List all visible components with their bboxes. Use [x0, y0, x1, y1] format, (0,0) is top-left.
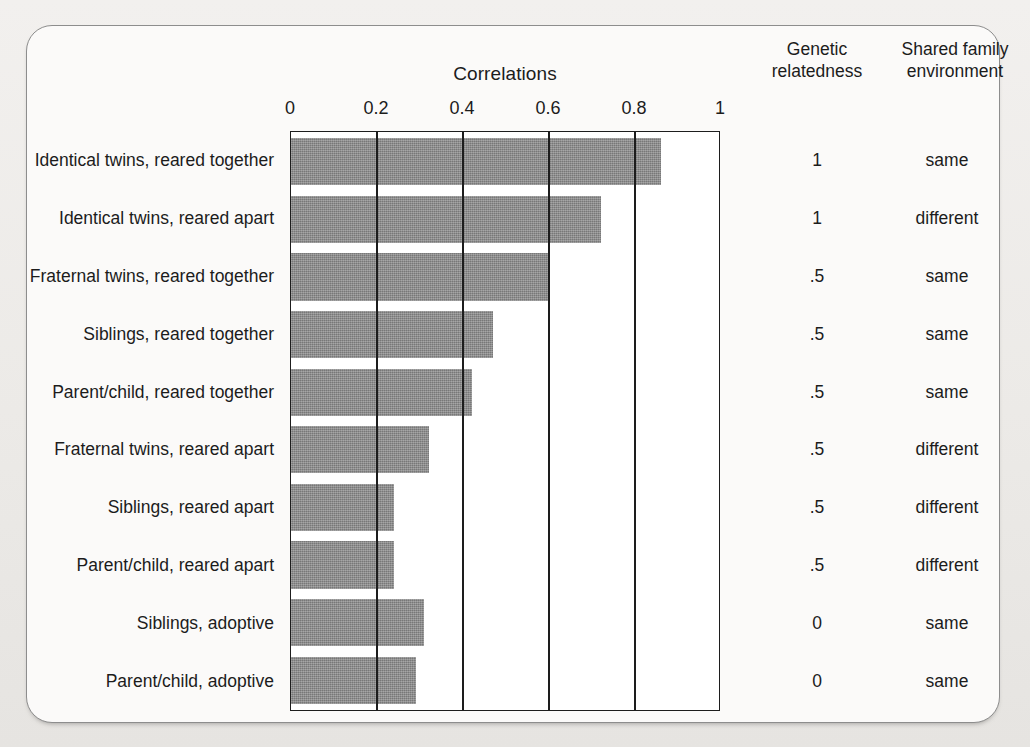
- chart-title: Correlations: [395, 63, 615, 85]
- bar-row: [291, 248, 719, 306]
- value-cell: .5: [742, 479, 892, 537]
- category-label: Fraternal twins, reared apart: [20, 421, 282, 479]
- bar-row: [291, 363, 719, 421]
- column-header-shared-line1: Shared family: [880, 38, 1030, 60]
- bar: [291, 196, 601, 243]
- column-header-genetic-line1: Genetic: [742, 38, 892, 60]
- bar-row: [291, 191, 719, 249]
- value-cell: .5: [742, 363, 892, 421]
- value-cell: 1: [742, 132, 892, 190]
- page-background: Correlations Genetic relatedness Shared …: [0, 0, 1030, 747]
- bar-row: [291, 651, 719, 709]
- bar: [291, 369, 472, 416]
- gridline: [634, 132, 636, 710]
- category-label: Siblings, reared apart: [20, 479, 282, 537]
- value-cell: 0: [742, 652, 892, 710]
- bar: [291, 484, 394, 531]
- x-tick-label: 0.8: [621, 98, 646, 119]
- category-axis-labels: Identical twins, reared togetherIdentica…: [20, 131, 282, 711]
- category-label: Siblings, adoptive: [20, 594, 282, 652]
- x-tick-label: 0.6: [535, 98, 560, 119]
- x-tick-label: 0: [285, 98, 295, 119]
- value-cell: .5: [742, 421, 892, 479]
- x-axis-tick-labels: 00.20.40.60.81: [290, 98, 720, 124]
- gridline: [376, 132, 378, 710]
- bar: [291, 541, 394, 588]
- bar-series: [291, 132, 719, 710]
- bar-row: [291, 421, 719, 479]
- value-cell: .5: [742, 537, 892, 595]
- bar: [291, 426, 429, 473]
- column-header-genetic-relatedness: Genetic relatedness: [742, 38, 892, 82]
- category-label: Parent/child, adoptive: [20, 652, 282, 710]
- bar: [291, 657, 416, 704]
- bar-row: [291, 594, 719, 652]
- column-shared-family-environment-values: samedifferentsamesamesamedifferentdiffer…: [880, 131, 1030, 711]
- category-label: Parent/child, reared together: [20, 363, 282, 421]
- x-tick-label: 1: [715, 98, 725, 119]
- bar: [291, 253, 549, 300]
- value-cell: different: [872, 479, 1022, 537]
- value-cell: .5: [742, 305, 892, 363]
- value-cell: same: [872, 305, 1022, 363]
- category-label: Parent/child, reared apart: [20, 537, 282, 595]
- bar-row: [291, 536, 719, 594]
- column-header-shared-line2: environment: [880, 60, 1030, 82]
- value-cell: same: [872, 652, 1022, 710]
- plot-area: [290, 131, 720, 711]
- value-cell: same: [872, 363, 1022, 421]
- bar-row: [291, 479, 719, 537]
- value-cell: different: [872, 190, 1022, 248]
- gridline: [548, 132, 550, 710]
- column-header-shared-family-environment: Shared family environment: [880, 38, 1030, 82]
- gridline: [462, 132, 464, 710]
- value-cell: same: [872, 248, 1022, 306]
- category-label: Identical twins, reared apart: [20, 190, 282, 248]
- value-cell: .5: [742, 248, 892, 306]
- value-cell: same: [872, 132, 1022, 190]
- category-label: Siblings, reared together: [20, 305, 282, 363]
- x-tick-label: 0.4: [449, 98, 474, 119]
- value-cell: 0: [742, 594, 892, 652]
- category-label: Fraternal twins, reared together: [20, 248, 282, 306]
- bar-row: [291, 306, 719, 364]
- column-genetic-relatedness-values: 11.5.5.5.5.5.500: [742, 131, 892, 711]
- value-cell: different: [872, 421, 1022, 479]
- x-tick-label: 0.2: [363, 98, 388, 119]
- category-label: Identical twins, reared together: [20, 132, 282, 190]
- bar: [291, 138, 661, 185]
- value-cell: same: [872, 594, 1022, 652]
- value-cell: different: [872, 537, 1022, 595]
- column-header-genetic-line2: relatedness: [742, 60, 892, 82]
- bar-row: [291, 133, 719, 191]
- value-cell: 1: [742, 190, 892, 248]
- bar: [291, 599, 424, 646]
